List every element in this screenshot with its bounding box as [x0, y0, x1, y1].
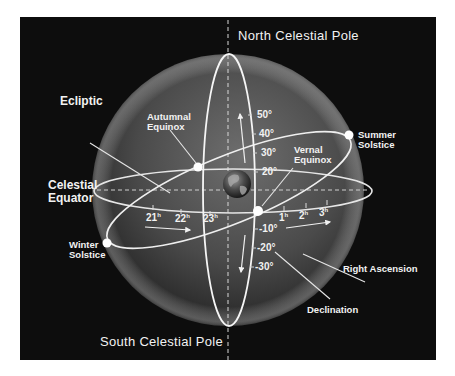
vernal-equinox-label: Vernal Equinox [294, 145, 331, 165]
ra-2-unit: h [305, 210, 309, 216]
ra-22-unit: h [186, 213, 190, 219]
vernal-equinox-line2: Equinox [294, 155, 331, 165]
ra-22-num: 22 [175, 213, 186, 224]
ra-tick-22h: 22h [175, 214, 190, 225]
ra-tick-21h: 21h [146, 213, 161, 224]
ra-3-unit: h [325, 207, 329, 213]
summer-solstice-point [345, 131, 354, 140]
dec-tick-20: 20° [262, 167, 277, 178]
dec-tick-minus30: -30° [255, 262, 273, 273]
vernal-equinox-point [253, 206, 263, 216]
summer-solstice-line2: Solstice [358, 140, 396, 150]
ra-tick-23h: 23h [203, 214, 218, 225]
summer-solstice-label: Summer Solstice [358, 130, 396, 150]
north-pole-label: North Celestial Pole [238, 29, 359, 43]
ra-tick-2h: 2h [299, 211, 308, 222]
ra-21-unit: h [157, 212, 161, 218]
celestial-equator-label-line2: Equator [48, 192, 97, 205]
winter-solstice-label: Winter Solstice [69, 240, 105, 260]
celestial-equator-label-line1: Celestial [48, 179, 97, 192]
ra-3-num: 3 [319, 207, 325, 218]
earth-icon [223, 170, 251, 198]
autumnal-equinox-point [194, 163, 203, 172]
ecliptic-label: Ecliptic [60, 95, 103, 108]
dec-tick-40: 40° [259, 129, 274, 140]
autumnal-equinox-line2: Equinox [147, 122, 191, 132]
ra-21-num: 21 [146, 212, 157, 223]
winter-solstice-line2: Solstice [69, 250, 105, 260]
dec-tick-50: 50° [257, 110, 272, 121]
south-pole-label: South Celestial Pole [100, 335, 223, 349]
dec-tick-30: 30° [261, 148, 276, 159]
ra-tick-3h: 3h [319, 208, 328, 219]
ra-1-num: 1 [279, 212, 285, 223]
autumnal-equinox-label: Autumnal Equinox [147, 112, 191, 132]
declination-label: Declination [307, 305, 358, 315]
celestial-equator-label: Celestial Equator [48, 179, 97, 204]
ra-23-unit: h [214, 213, 218, 219]
right-ascension-label: Right Ascension [343, 264, 418, 274]
ra-1-unit: h [285, 212, 289, 218]
ra-2-num: 2 [299, 210, 305, 221]
ra-tick-1h: 1h [279, 213, 288, 224]
dec-tick-minus10: -10° [259, 224, 277, 235]
ra-23-num: 23 [203, 213, 214, 224]
dec-tick-minus20: -20° [257, 243, 275, 254]
